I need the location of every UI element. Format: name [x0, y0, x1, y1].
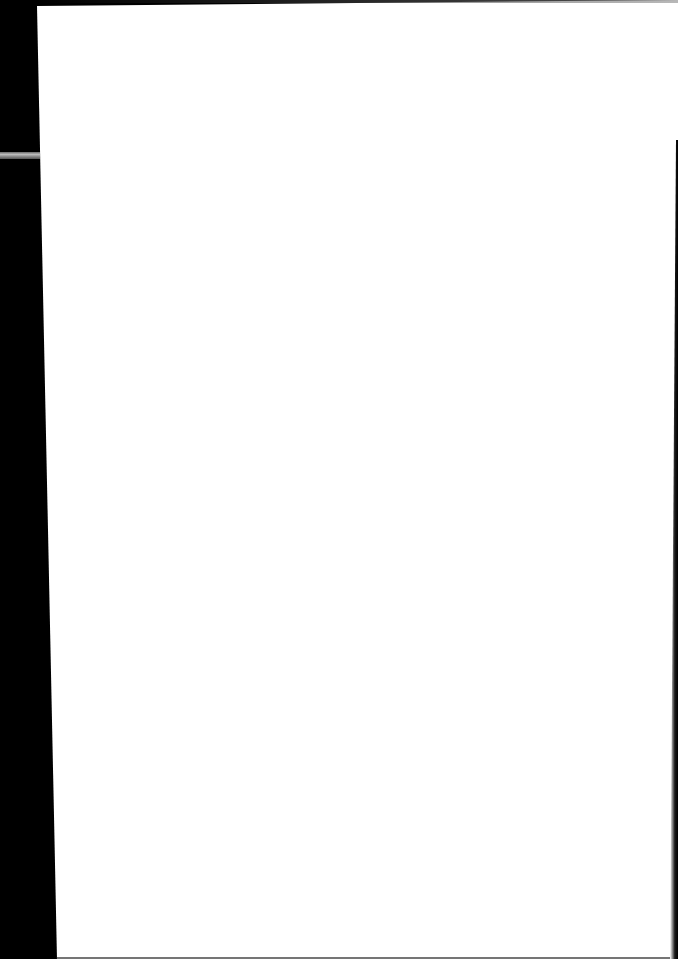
- scan-background: [0, 0, 678, 959]
- scan-artifact-streak: [0, 152, 40, 159]
- page-top-edge: [37, 0, 678, 3]
- page-content-area: [60, 40, 640, 920]
- blank-page: [0, 0, 678, 959]
